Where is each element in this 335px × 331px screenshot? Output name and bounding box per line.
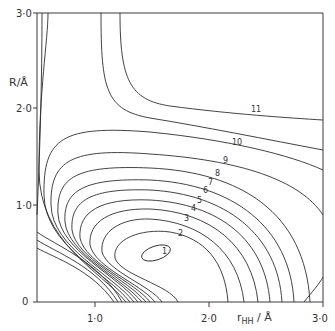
contour-corner (304, 277, 323, 302)
label-10: 10 (232, 138, 242, 147)
label-9: 9 (223, 156, 228, 165)
y-tick-0: 0 (22, 296, 28, 307)
contour-outer-a (101, 13, 323, 150)
y-tick-3: 3·0 (16, 8, 32, 19)
contour-9 (51, 153, 323, 302)
x-tick-3: 3·0 (312, 313, 328, 324)
y-tick-2: 2·0 (16, 103, 32, 114)
label-2: 2 (178, 229, 183, 238)
label-4: 4 (191, 204, 196, 213)
x-tick-1: 1·0 (87, 313, 103, 324)
y-tick-1: 1·0 (16, 200, 32, 211)
label-5: 5 (197, 196, 202, 205)
x-axis-label: rHH / Å (237, 311, 272, 326)
label-11: 11 (251, 105, 261, 114)
y-axis-label: R/Å (9, 76, 28, 89)
label-7: 7 (208, 178, 213, 187)
contour-dense (37, 232, 122, 302)
contour-lines (37, 13, 323, 302)
contour-plot: 3·0 2·0 1·0 0 1·0 2·0 3·0 R/Å rHH / Å (0, 0, 335, 331)
label-8: 8 (215, 169, 220, 178)
contour-11-upper (120, 13, 323, 120)
contour-3 (102, 219, 244, 302)
contour-1 (140, 242, 173, 265)
contour-7 (65, 180, 294, 302)
label-6: 6 (203, 186, 208, 195)
label-1: 1 (162, 247, 167, 256)
x-tick-2: 2·0 (201, 313, 217, 324)
contour-2 (115, 231, 228, 302)
label-3: 3 (184, 214, 189, 223)
